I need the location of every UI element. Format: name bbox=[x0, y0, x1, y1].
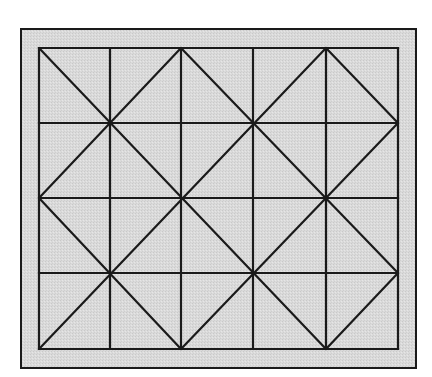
grid-board-diagram bbox=[0, 0, 432, 377]
